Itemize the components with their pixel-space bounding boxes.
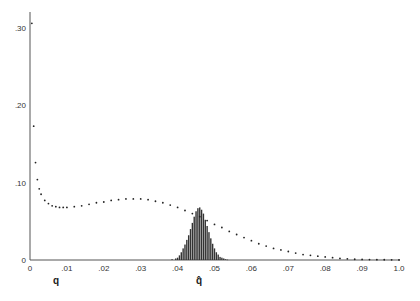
curve-point xyxy=(354,258,356,260)
curve-point xyxy=(51,205,53,207)
bar xyxy=(194,217,195,260)
curve-point xyxy=(243,237,245,239)
bar xyxy=(184,245,185,260)
curve-point xyxy=(36,179,38,181)
curve-point xyxy=(33,125,35,127)
bar-series xyxy=(171,207,228,260)
curve-point xyxy=(66,207,68,209)
y-tick-label: .10 xyxy=(15,179,27,188)
bar xyxy=(206,226,207,260)
curve-point xyxy=(177,207,179,209)
y-tick-label: 0 xyxy=(22,256,27,265)
x-tick-label: .01 xyxy=(61,264,73,273)
bar xyxy=(214,248,215,260)
x-tick-labels: 0.01.02.03.04.05.06.07.08.091.0 xyxy=(28,264,405,273)
x-tick-label: .08 xyxy=(320,264,332,273)
curve-point xyxy=(103,201,105,203)
curve-point xyxy=(110,200,112,202)
curve-point xyxy=(251,240,253,242)
curve-point xyxy=(228,230,230,232)
curve-point xyxy=(265,245,267,247)
bar xyxy=(192,223,193,260)
bar xyxy=(216,252,217,260)
curve-point xyxy=(221,227,223,229)
curve-point xyxy=(62,207,64,209)
curve-point xyxy=(206,220,208,222)
curve-point xyxy=(155,200,157,202)
bar xyxy=(179,255,180,260)
curve-point xyxy=(287,251,289,253)
bar xyxy=(199,207,200,260)
y-tick-label: .20 xyxy=(15,101,27,110)
x-tick-label: .09 xyxy=(357,264,369,273)
x-tick-label: .02 xyxy=(98,264,110,273)
bar xyxy=(182,248,183,260)
bar xyxy=(175,258,176,260)
x-tick-label: .07 xyxy=(283,264,295,273)
y-tick-label: .30 xyxy=(15,24,27,33)
curve-point xyxy=(339,258,341,260)
curve-point xyxy=(391,259,393,261)
bar xyxy=(205,220,206,260)
bar xyxy=(197,208,198,260)
x-tick-label: 1.0 xyxy=(393,264,405,273)
bar xyxy=(188,235,189,260)
bar xyxy=(201,210,202,260)
curve-point xyxy=(324,256,326,258)
curve-point xyxy=(383,259,385,261)
curve-point xyxy=(273,248,275,250)
bar xyxy=(210,238,211,260)
curve-point xyxy=(55,206,57,208)
bar xyxy=(181,252,182,260)
curve-point xyxy=(310,254,312,256)
curve-point xyxy=(280,249,282,251)
y-tick-labels: 0.10.20.30 xyxy=(15,24,27,265)
curve-point xyxy=(44,200,46,202)
curve-point xyxy=(376,259,378,261)
x-tick-label: .04 xyxy=(172,264,184,273)
bar xyxy=(186,240,187,260)
curve-point xyxy=(258,243,260,245)
curve-point xyxy=(295,252,297,254)
axes xyxy=(30,12,400,260)
curve-point xyxy=(35,162,37,164)
dotted-curve-series xyxy=(31,22,400,260)
curve-point xyxy=(346,258,348,260)
curve-point xyxy=(162,202,164,204)
curve-point xyxy=(199,216,201,218)
bar xyxy=(177,258,178,260)
curve-point xyxy=(398,259,400,261)
curve-point xyxy=(332,257,334,259)
bar xyxy=(227,260,228,261)
curve-point xyxy=(191,213,193,215)
curve-point xyxy=(81,205,83,207)
q-hat-marker-label: q̂ xyxy=(196,275,202,286)
curve-point xyxy=(118,199,120,201)
curve-point xyxy=(361,258,363,260)
bar xyxy=(217,255,218,260)
x-tick-label: .03 xyxy=(135,264,147,273)
curve-point xyxy=(369,259,371,261)
curve-point xyxy=(88,203,90,205)
curve-point xyxy=(302,254,304,256)
curve-point xyxy=(38,188,40,190)
x-tick-label: .06 xyxy=(246,264,258,273)
curve-point xyxy=(214,224,216,226)
x-axis-label: q xyxy=(53,275,59,286)
bar xyxy=(212,244,213,260)
x-tick-label: 0 xyxy=(28,264,33,273)
x-tick-label: .05 xyxy=(209,264,221,273)
curve-point xyxy=(169,204,171,206)
bar xyxy=(225,259,226,260)
curve-point xyxy=(96,202,98,204)
curve-point xyxy=(73,206,75,208)
bar xyxy=(190,229,191,260)
bar xyxy=(195,211,196,260)
curve-point xyxy=(317,255,319,257)
curve-point xyxy=(132,198,134,200)
curve-point xyxy=(147,199,149,201)
curve-point xyxy=(125,198,127,200)
curve-point xyxy=(31,22,33,24)
bar xyxy=(203,214,204,260)
curve-point xyxy=(40,193,42,195)
